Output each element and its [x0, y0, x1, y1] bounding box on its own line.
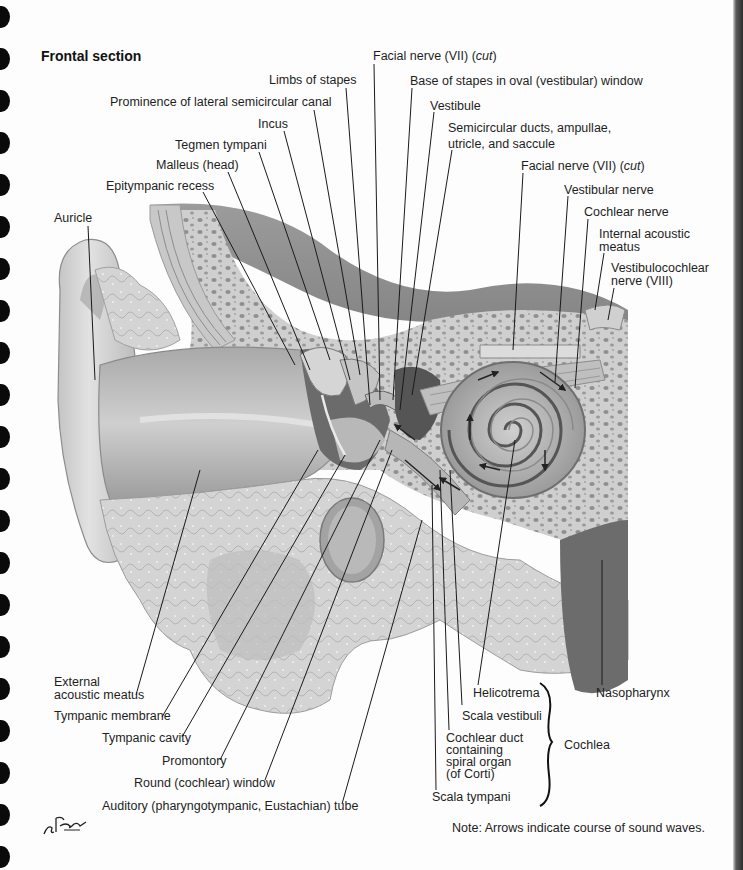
cochlea	[440, 362, 585, 498]
label-round-window: Round (cochlear) window	[134, 776, 275, 790]
label-base-of-stapes: Base of stapes in oval (vestibular) wind…	[410, 74, 643, 88]
label-nasopharynx: Nasopharynx	[596, 686, 670, 700]
label-external-acoustic-meatus: External acoustic meatus	[54, 676, 144, 702]
gland-lobule	[207, 550, 315, 660]
label-semicircular-ducts: Semicircular ducts, ampullae, utricle, a…	[448, 120, 611, 152]
cochlea-brace	[540, 683, 552, 806]
label-promontory: Promontory	[162, 754, 227, 768]
label-malleus-head: Malleus (head)	[156, 158, 239, 172]
label-incus: Incus	[258, 117, 288, 131]
label-scala-vestibuli: Scala vestibuli	[462, 709, 542, 723]
label-cochlear-duct: Cochlear duct containing spiral organ (o…	[446, 732, 523, 780]
label-tympanic-cavity: Tympanic cavity	[102, 731, 191, 745]
label-vestibulocochlear-nerve: Vestibulocochlear nerve (VIII)	[611, 262, 709, 288]
label-tegmen-tympani: Tegmen tympani	[175, 138, 267, 152]
label-cochlear-nerve: Cochlear nerve	[584, 205, 669, 219]
label-vestibular-nerve: Vestibular nerve	[564, 183, 654, 197]
label-internal-acoustic-meatus: Internal acoustic meatus	[599, 228, 690, 254]
figure-note: Note: Arrows indicate course of sound wa…	[452, 821, 705, 835]
facial-nerve	[480, 345, 580, 358]
label-vestibule: Vestibule	[430, 99, 481, 113]
page: Frontal section Facial nerve (VII) (cut)…	[0, 0, 743, 870]
label-auditory-tube: Auditory (pharyngotympanic, Eustachian) …	[102, 799, 358, 813]
label-epitympanic-recess: Epitympanic recess	[106, 179, 214, 193]
label-facial-nerve-cut-2: Facial nerve (VII) (cut)	[521, 159, 645, 173]
nasopharynx	[560, 520, 628, 693]
label-facial-nerve-cut-1: Facial nerve (VII) (cut)	[373, 49, 497, 63]
label-auricle: Auricle	[54, 211, 92, 225]
label-helicotrema: Helicotrema	[473, 686, 540, 700]
label-prominence-lateral-semicircular-canal: Prominence of lateral semicircular canal	[110, 95, 332, 109]
label-tympanic-membrane: Tympanic membrane	[54, 709, 171, 723]
internal-acoustic-meatus	[585, 305, 625, 330]
artist-signature-icon	[40, 810, 90, 840]
label-scala-tympani: Scala tympani	[432, 790, 511, 804]
label-cochlea: Cochlea	[564, 738, 610, 752]
figure-title: Frontal section	[41, 48, 141, 64]
label-limbs-of-stapes: Limbs of stapes	[269, 73, 357, 87]
